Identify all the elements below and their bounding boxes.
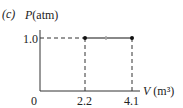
- x-axis-label: V (m³): [143, 85, 174, 97]
- data-point-1: [83, 36, 87, 40]
- data-point-2: [130, 36, 134, 40]
- x-tick-label-2: 4.1: [124, 95, 139, 107]
- origin-label: 0: [31, 95, 37, 107]
- x-tick-label-1: 2.2: [77, 95, 92, 107]
- x-axis-var: V: [143, 84, 150, 98]
- x-axis-unit: (m³): [153, 84, 174, 98]
